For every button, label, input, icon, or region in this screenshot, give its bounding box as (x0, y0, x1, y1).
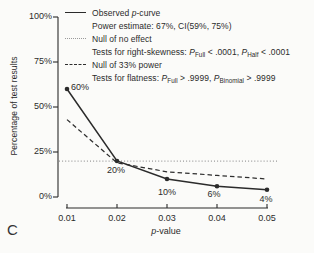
legend-row-power-estimate: Power estimate: 67%, CI(59%, 75%) (65, 19, 290, 32)
y-tick-label-75: 75% (18, 56, 52, 67)
legend-row-skewness: Tests for right-skewness: PFull < .0001,… (65, 45, 290, 58)
dotted-line-swatch (65, 38, 86, 39)
x-tick-label-004: 0.04 (200, 213, 234, 224)
point-label-10: 10% (152, 187, 182, 197)
legend-row-null-no-effect: Null of no effect (65, 32, 290, 45)
legend: Observed p-curve Power estimate: 67%, CI… (65, 6, 290, 84)
legend-row-null-33: Null of 33% power (65, 58, 290, 71)
y-tick-label-50: 50% (18, 101, 52, 112)
dashed-line-swatch (65, 64, 86, 65)
legend-observed-label: Observed p-curve (92, 8, 160, 18)
point-label-20: 20% (101, 165, 131, 175)
solid-line-swatch (65, 12, 86, 13)
x-tick-label-002: 0.02 (100, 213, 134, 224)
p-curve-figure: Percentage of test results 0% 25% 50% 75… (0, 0, 314, 253)
y-tick-label-25: 25% (18, 146, 52, 157)
legend-null-33-power: Null of 33% power (92, 60, 162, 70)
point-label-6: 6% (199, 189, 229, 199)
x-axis-title: p-value (135, 226, 197, 236)
panel-letter: C (7, 221, 18, 238)
point-label-4: 4% (251, 194, 281, 204)
legend-skewness-tests: Tests for right-skewness: PFull < .0001,… (92, 47, 290, 57)
y-tick-label-100: 100% (18, 11, 52, 22)
legend-flatness-tests: Tests for flatness: PFull > .9999, PBino… (92, 73, 275, 83)
x-tick-label-003: 0.03 (150, 213, 184, 224)
legend-null-no-effect: Null of no effect (92, 34, 152, 44)
legend-row-flatness: Tests for flatness: PFull > .9999, PBino… (65, 71, 290, 84)
legend-power-estimate: Power estimate: 67%, CI(59%, 75%) (92, 21, 232, 31)
x-axis-title-rest: -value (156, 226, 181, 236)
x-tick-label-005: 0.05 (250, 213, 284, 224)
legend-row-observed: Observed p-curve (65, 6, 290, 19)
x-tick-label-001: 0.01 (50, 213, 84, 224)
y-tick-label-0: 0% (18, 191, 52, 202)
